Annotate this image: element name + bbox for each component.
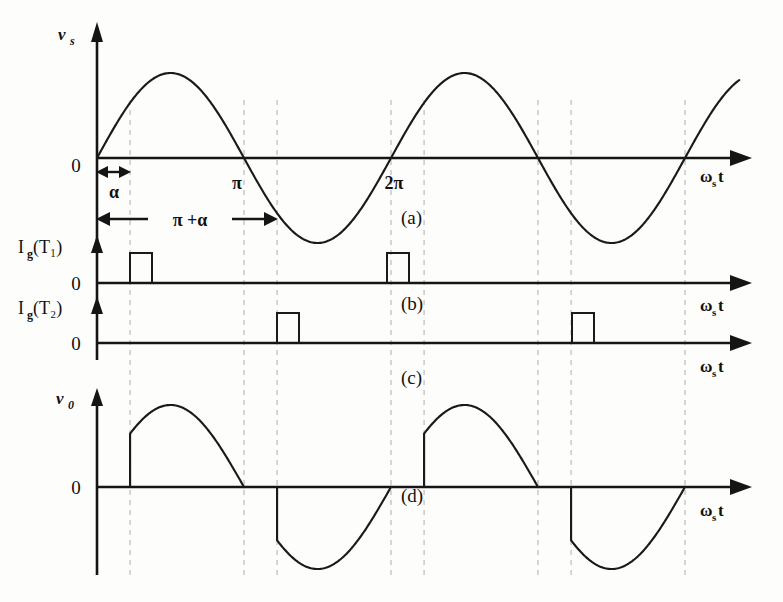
panel-d-y-label-subscript: 0: [68, 398, 74, 412]
panel-a-x-axis-label-subscript: s: [712, 177, 717, 189]
panel-c: I g (T₂) 0 ω s t (c): [18, 296, 752, 389]
panel-a: v s 0 ω s t π 2π (a) α: [58, 22, 752, 243]
panel-b: I g (T₁) 0 ω s t (b): [18, 235, 752, 318]
alpha-dimension-arrow-right: [119, 166, 131, 178]
panel-d-x-axis-arrowhead: [730, 479, 752, 495]
panel-a-x-axis-label: ω: [700, 167, 712, 186]
panel-d-y-axis-arrowhead: [91, 388, 103, 406]
panel-tag-d: (d): [401, 485, 423, 507]
panel-d-x-axis-label: ω: [700, 501, 712, 520]
panel-c-x-axis-label-tail: t: [718, 357, 724, 376]
panel-b-y-axis-arrowhead: [91, 235, 103, 253]
panel-d: v 0 0 ω s t (d): [56, 388, 752, 575]
panel-d-x-axis-label-tail: t: [718, 501, 724, 520]
pi-plus-alpha-dimension: π +α: [96, 206, 278, 232]
panel-tag-a: (a): [401, 207, 422, 229]
panel-a-y-axis-arrowhead: [91, 22, 103, 42]
panel-tag-c: (c): [401, 367, 422, 389]
panel-d-zero-label: 0: [71, 477, 81, 498]
panel-c-x-axis-label-subscript: s: [712, 367, 717, 379]
panel-b-x-axis-label-subscript: s: [712, 306, 717, 318]
panel-tag-b: (b): [401, 293, 423, 315]
tick-label-2pi: 2π: [385, 173, 404, 193]
panel-b-x-axis-arrowhead: [730, 275, 752, 291]
panel-a-x-axis-label-tail: t: [718, 167, 724, 186]
panel-d-x-axis-label-subscript: s: [712, 511, 717, 523]
panel-c-y-label: I: [18, 298, 24, 318]
panel-a-zero-label: 0: [71, 155, 81, 176]
panel-d-y-label: v: [56, 389, 64, 408]
panel-b-zero-label: 0: [71, 273, 81, 294]
pi-plus-alpha-arrow-right: [264, 212, 278, 226]
panel-c-y-axis-arrowhead: [91, 296, 103, 314]
alpha-label: α: [109, 182, 119, 202]
panel-a-x-axis-arrowhead: [730, 150, 752, 166]
gate-pulse-t1-waveform: [130, 253, 409, 283]
waveform-figure: v s 0 ω s t π 2π (a) α: [0, 0, 783, 602]
panel-b-x-axis-label-tail: t: [718, 296, 724, 315]
panel-b-y-label-arg: (T₁): [33, 237, 62, 258]
panel-c-x-axis-arrowhead: [730, 335, 752, 351]
alpha-dimension: α: [96, 166, 131, 202]
panel-c-zero-label: 0: [71, 333, 81, 354]
panel-b-y-label: I: [18, 237, 24, 257]
panel-c-x-axis-label: ω: [700, 357, 712, 376]
panel-a-y-label: v: [58, 25, 66, 44]
pi-plus-alpha-label: π +α: [173, 210, 208, 230]
tick-label-pi: π: [232, 173, 242, 193]
grid-lines: [130, 100, 685, 578]
panel-c-y-label-arg: (T₂): [33, 298, 62, 319]
gate-pulse-t2-waveform: [277, 313, 594, 343]
waveform-svg: v s 0 ω s t π 2π (a) α: [0, 0, 783, 602]
panel-a-y-label-subscript: s: [69, 34, 75, 48]
panel-b-x-axis-label: ω: [700, 296, 712, 315]
